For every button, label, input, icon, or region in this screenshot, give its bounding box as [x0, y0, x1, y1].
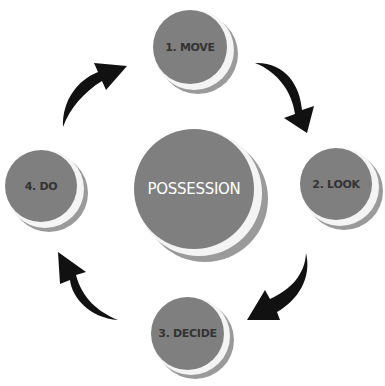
step-look-label: 2. LOOK [300, 148, 372, 220]
step-do-label: 4. DO [5, 150, 77, 222]
center-label: POSSESSION [134, 129, 254, 249]
center-possession-node: POSSESSION [130, 126, 270, 266]
arrow-decide-to-do-icon [58, 252, 118, 320]
step-decide-label: 3. DECIDE [151, 297, 224, 370]
arrow-move-to-look-icon [255, 63, 314, 133]
step-move-node: 1. MOVE [150, 8, 240, 98]
arrow-do-to-move-icon [63, 63, 127, 127]
step-do-node: 4. DO [2, 148, 92, 238]
step-move-label: 1. MOVE [153, 10, 227, 84]
step-decide-node: 3. DECIDE [148, 295, 243, 386]
step-look-node: 2. LOOK [297, 146, 385, 236]
